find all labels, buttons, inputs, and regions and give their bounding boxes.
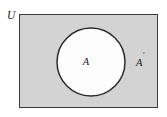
venn-diagram-canvas: U A A′ bbox=[0, 0, 167, 117]
universal-set-label: U bbox=[7, 9, 16, 21]
set-a-label: A bbox=[82, 56, 90, 67]
venn-diagram-figure: U A A′ bbox=[0, 0, 167, 117]
prime-mark-icon: ′ bbox=[142, 51, 144, 60]
set-a-circle bbox=[57, 28, 125, 96]
